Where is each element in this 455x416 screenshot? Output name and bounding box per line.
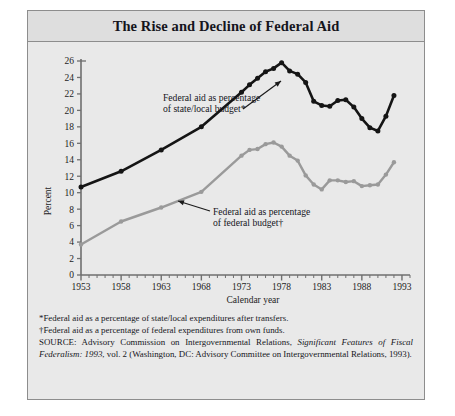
- source-text-1: Advisory Commission on Intergovernmental…: [76, 337, 297, 347]
- data-point: [199, 190, 203, 194]
- y-tick-label: 14: [65, 155, 75, 165]
- figure-title: The Rise and Decline of Federal Aid: [28, 18, 424, 35]
- x-axis: 195319581963196819731978198319881993: [72, 275, 412, 292]
- data-point: [239, 153, 243, 157]
- y-tick-label: 4: [69, 237, 74, 247]
- y-tick-label: 0: [69, 270, 74, 280]
- data-point: [335, 98, 340, 103]
- x-tick-label: 1968: [192, 282, 211, 292]
- series-2: [79, 140, 396, 246]
- chart-plot-area: 02468101214161820222426 1953195819631968…: [38, 51, 415, 309]
- y-tick-label: 16: [65, 139, 75, 149]
- y-axis-label: Percent: [43, 186, 53, 215]
- data-point: [368, 183, 372, 187]
- data-point: [327, 104, 332, 109]
- data-point: [287, 68, 292, 73]
- data-point: [375, 128, 380, 133]
- data-point: [391, 93, 396, 98]
- data-point: [159, 147, 164, 152]
- x-tick-label: 1953: [72, 282, 91, 292]
- y-tick-label: 24: [65, 73, 75, 83]
- series1-annotation-line1: Federal aid as percentage: [163, 92, 260, 103]
- y-tick-label: 8: [69, 205, 74, 215]
- data-point: [295, 72, 300, 77]
- data-point: [255, 76, 260, 81]
- figure-title-band: The Rise and Decline of Federal Aid: [28, 11, 424, 42]
- y-tick-label: 26: [65, 56, 75, 66]
- data-point: [295, 158, 299, 162]
- data-point: [319, 103, 324, 108]
- series2-annotation-line2: of federal budget†: [213, 217, 284, 228]
- data-point: [79, 242, 83, 246]
- series1-annotation-line2: of state/local budget*: [163, 103, 246, 114]
- data-point: [271, 66, 276, 71]
- data-point: [279, 60, 284, 65]
- source-label: SOURCE:: [39, 337, 76, 347]
- data-point: [392, 160, 396, 164]
- data-point: [343, 97, 348, 102]
- x-tick-label: 1988: [352, 282, 371, 292]
- data-point: [311, 99, 316, 104]
- y-tick-label: 6: [69, 221, 74, 231]
- data-point: [328, 178, 332, 182]
- series-1: [79, 60, 397, 189]
- x-tick-label: 1993: [392, 282, 411, 292]
- source-text-2: , vol. 2 (Washington, DC: Advisory Commi…: [102, 349, 411, 359]
- data-point: [263, 142, 267, 146]
- x-tick-label: 1983: [312, 282, 331, 292]
- figure-notes: *Federal aid as a percentage of state/lo…: [39, 313, 413, 361]
- y-tick-label: 20: [65, 106, 75, 116]
- source-note: SOURCE: Advisory Commission on Intergove…: [39, 337, 413, 360]
- data-point: [359, 116, 364, 121]
- data-point: [271, 140, 275, 144]
- x-axis-label: Calendar year: [226, 295, 280, 305]
- data-point: [279, 144, 283, 148]
- y-tick-label: 22: [65, 89, 75, 99]
- data-point: [303, 173, 307, 177]
- annotation-arrowhead-1: [275, 81, 281, 87]
- data-point: [384, 172, 388, 176]
- data-point: [247, 148, 251, 152]
- data-point: [255, 147, 259, 151]
- x-tick-label: 1978: [272, 282, 291, 292]
- data-point: [344, 180, 348, 184]
- data-point: [263, 69, 268, 74]
- data-point: [383, 114, 388, 119]
- series2-annotation-line1: Federal aid as percentage: [213, 206, 310, 217]
- data-point: [360, 184, 364, 188]
- y-tick-label: 2: [69, 254, 74, 264]
- data-point: [199, 124, 204, 129]
- data-point: [367, 125, 372, 130]
- footnote-dagger: †Federal aid as a percentage of federal …: [39, 325, 413, 337]
- footnote-asterisk: *Federal aid as a percentage of state/lo…: [39, 313, 413, 325]
- data-point: [312, 182, 316, 186]
- annotation-arrowhead-2: [178, 200, 185, 205]
- data-point: [247, 82, 252, 87]
- data-point: [119, 219, 123, 223]
- data-point: [351, 105, 356, 110]
- data-point: [320, 187, 324, 191]
- data-point: [119, 169, 124, 174]
- x-tick-label: 1958: [112, 282, 131, 292]
- y-tick-label: 18: [65, 122, 75, 132]
- figure-panel: FIGURE 6.1 The Rise and Decline of Feder…: [27, 10, 425, 400]
- data-point: [352, 179, 356, 183]
- data-point: [336, 178, 340, 182]
- x-tick-label: 1963: [152, 282, 171, 292]
- data-point: [79, 184, 84, 189]
- data-point: [303, 80, 308, 85]
- data-point: [376, 182, 380, 186]
- y-tick-label: 12: [65, 172, 75, 182]
- data-point: [287, 153, 291, 157]
- y-tick-label: 10: [65, 188, 75, 198]
- data-point: [159, 205, 163, 209]
- x-tick-label: 1973: [232, 282, 251, 292]
- chart-svg: 02468101214161820222426 1953195819631968…: [38, 51, 415, 309]
- y-axis: 02468101214161820222426: [65, 56, 87, 280]
